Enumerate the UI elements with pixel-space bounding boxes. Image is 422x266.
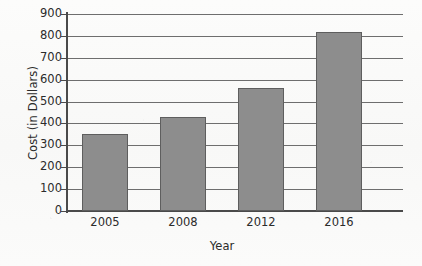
y-axis-tick-label: 500 (26, 96, 62, 108)
plot-area (66, 14, 403, 211)
y-axis-tick-label: 200 (26, 161, 62, 173)
bar (238, 88, 284, 211)
bar (160, 117, 206, 211)
bar (316, 32, 362, 211)
x-axis-title: Year (66, 239, 378, 253)
y-axis-tick-label: 900 (26, 8, 62, 20)
bar (82, 134, 128, 211)
y-axis-tick-label: 300 (26, 140, 62, 152)
x-axis-tick-labels: 2005200820122016 (66, 215, 378, 233)
y-axis-tick-label: 600 (26, 74, 62, 86)
x-axis-tick-label: 2012 (246, 215, 275, 229)
x-axis-tick-label: 2005 (90, 215, 119, 229)
y-axis-tick-label: 400 (26, 118, 62, 130)
y-axis-tick-labels: 9008007006005004003002001000 (26, 14, 62, 211)
y-axis-tick-label: 0 (26, 205, 62, 217)
y-axis-tick-label: 700 (26, 52, 62, 64)
x-axis-tick-label: 2008 (168, 215, 197, 229)
x-axis-tick-label: 2016 (324, 215, 353, 229)
bar-chart: Cost (in Dollars) 9008007006005004003002… (0, 0, 422, 266)
bars-group (66, 14, 378, 211)
y-axis-tick-label: 800 (26, 30, 62, 42)
y-axis-tick-label: 100 (26, 183, 62, 195)
